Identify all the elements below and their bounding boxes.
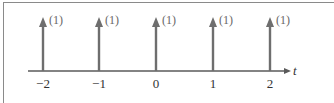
time-axis: t xyxy=(28,63,297,78)
impulse-arrow-icon xyxy=(266,17,274,27)
impulse-weight: (1) xyxy=(162,13,176,27)
impulse-weight: (1) xyxy=(49,13,63,27)
axis-arrow-icon xyxy=(284,68,291,74)
impulse-arrow-icon xyxy=(39,17,47,27)
impulse-weight: (1) xyxy=(219,13,233,27)
tick-label: 1 xyxy=(210,76,217,91)
impulse-arrow-icon xyxy=(152,17,160,27)
impulse-weight: (1) xyxy=(276,13,290,27)
impulse-4: (1) 2 xyxy=(266,13,290,91)
axis-label-t: t xyxy=(293,63,297,78)
tick-label: −1 xyxy=(92,76,106,91)
impulse-2: (1) 0 xyxy=(152,13,176,91)
impulse-arrow-icon xyxy=(209,17,217,27)
tick-label: 2 xyxy=(267,76,274,91)
impulse-arrow-icon xyxy=(95,17,103,27)
impulse-weight: (1) xyxy=(105,13,119,27)
impulse-0: (1) −2 xyxy=(36,13,63,91)
tick-label: 0 xyxy=(153,76,160,91)
impulse-1: (1) −1 xyxy=(92,13,119,91)
tick-label: −2 xyxy=(36,76,50,91)
impulse-3: (1) 1 xyxy=(209,13,233,91)
